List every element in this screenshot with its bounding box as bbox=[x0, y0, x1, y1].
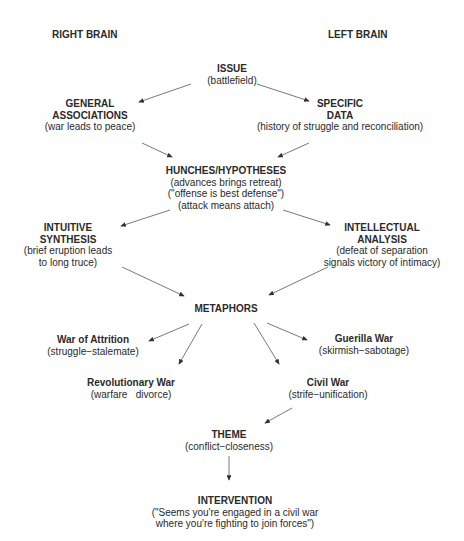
arrow-icon bbox=[121, 84, 330, 480]
arrow-layer bbox=[0, 0, 464, 541]
